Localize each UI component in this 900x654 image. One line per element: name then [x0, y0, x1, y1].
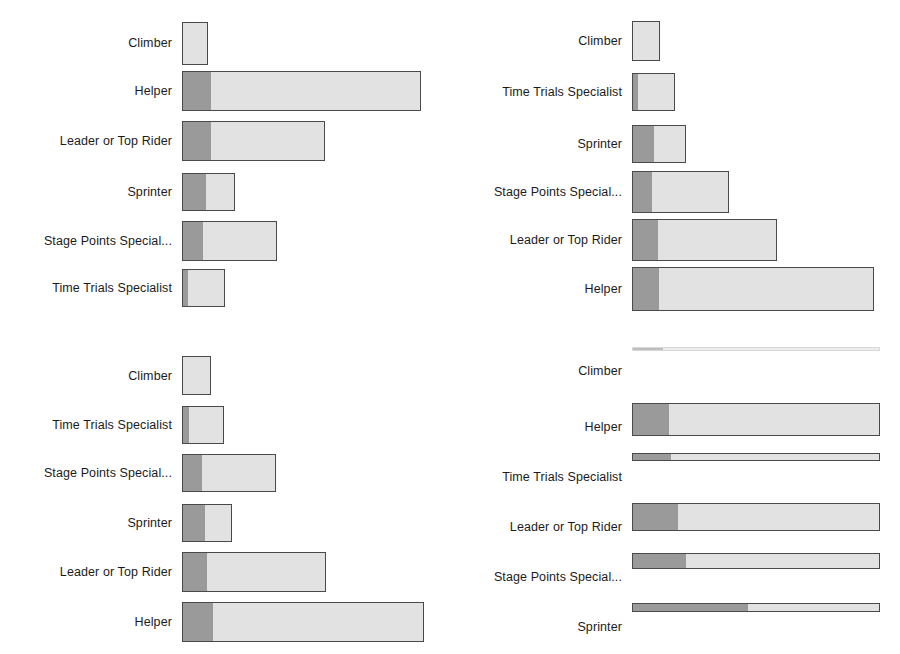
- bar-track: [182, 70, 450, 112]
- table-row[interactable]: Sprinter: [450, 124, 900, 164]
- table-row[interactable]: Sprinter: [450, 603, 900, 651]
- bar-track: [632, 603, 900, 651]
- stacked-bar[interactable]: [632, 73, 675, 111]
- stacked-bar[interactable]: [182, 269, 225, 307]
- bar-segment-light: [188, 270, 224, 306]
- table-row[interactable]: Stage Points Special...: [0, 220, 450, 262]
- chart-panel-bottom-right: Climber Helper Time Tr: [450, 327, 900, 654]
- bar-label: Time Trials Specialist: [450, 85, 632, 99]
- table-row[interactable]: Stage Points Special...: [0, 453, 450, 493]
- table-row[interactable]: Leader or Top Rider: [0, 120, 450, 162]
- bar-segment-light: [663, 348, 879, 350]
- table-row[interactable]: Time Trials Specialist: [0, 268, 450, 308]
- stacked-bar[interactable]: [632, 219, 777, 261]
- bar-segment-light: [658, 220, 776, 260]
- bar-segment-light: [183, 357, 210, 394]
- bar-label: Climber: [0, 369, 182, 383]
- bar-track: [182, 355, 450, 396]
- table-row[interactable]: Time Trials Specialist: [450, 453, 900, 501]
- table-row[interactable]: Climber: [0, 20, 450, 65]
- bar-track: [182, 551, 450, 593]
- bar-segment-light: [207, 553, 325, 591]
- stacked-bar[interactable]: [182, 173, 235, 211]
- stacked-bar[interactable]: [632, 21, 660, 61]
- bar-track: [182, 172, 450, 212]
- stacked-bar[interactable]: [182, 22, 208, 65]
- table-row[interactable]: Sprinter: [0, 503, 450, 543]
- bar-segment-dark: [633, 268, 659, 310]
- bar-track: [182, 220, 450, 262]
- bar-label: Climber: [0, 36, 182, 50]
- stacked-bar[interactable]: [182, 504, 232, 542]
- table-row[interactable]: Leader or Top Rider: [0, 551, 450, 593]
- bar-segment-light: [211, 72, 420, 110]
- stacked-bar[interactable]: [632, 503, 880, 531]
- table-row[interactable]: Leader or Top Rider: [450, 218, 900, 262]
- stacked-bar[interactable]: [632, 347, 880, 351]
- table-row[interactable]: Climber: [450, 20, 900, 62]
- stacked-bar[interactable]: [182, 121, 325, 161]
- bar-label: Helper: [0, 84, 182, 98]
- bar-track: [632, 503, 900, 551]
- stacked-bar[interactable]: [182, 552, 326, 592]
- bar-track: [182, 601, 450, 643]
- bar-segment-light: [659, 268, 873, 310]
- bar-label: Climber: [450, 364, 632, 378]
- stacked-bar[interactable]: [632, 171, 729, 213]
- bar-segment-light: [183, 23, 207, 64]
- stacked-bar[interactable]: [632, 603, 880, 612]
- bar-segment-dark: [633, 348, 663, 350]
- small-multiples-bar-chart-figure: Climber Helper Leader: [0, 0, 900, 654]
- stacked-bar[interactable]: [632, 553, 880, 569]
- bar-track: [182, 20, 450, 65]
- bar-label: Stage Points Special...: [0, 234, 182, 248]
- table-row[interactable]: Time Trials Specialist: [0, 405, 450, 445]
- bar-segment-dark: [633, 126, 654, 162]
- stacked-bar[interactable]: [632, 267, 874, 311]
- bar-segment-dark: [633, 454, 671, 460]
- bar-segment-light: [678, 504, 879, 530]
- bar-segment-light: [638, 74, 674, 110]
- table-row[interactable]: Helper: [0, 601, 450, 643]
- stacked-bar[interactable]: [632, 125, 686, 163]
- table-row[interactable]: Climber: [450, 347, 900, 395]
- table-row[interactable]: Climber: [0, 355, 450, 396]
- bar-label: Leader or Top Rider: [0, 565, 182, 579]
- bar-segment-light: [206, 174, 234, 210]
- stacked-bar[interactable]: [182, 356, 211, 395]
- stacked-bar[interactable]: [182, 602, 424, 642]
- bar-label: Sprinter: [0, 185, 182, 199]
- stacked-bar[interactable]: [182, 71, 421, 111]
- bar-segment-dark: [183, 222, 203, 260]
- table-row[interactable]: Helper: [450, 403, 900, 451]
- stacked-bar[interactable]: [632, 403, 880, 436]
- bar-segment-light: [211, 122, 324, 160]
- bar-label: Sprinter: [0, 516, 182, 530]
- bar-segment-dark: [633, 220, 658, 260]
- table-row[interactable]: Stage Points Special...: [450, 170, 900, 214]
- bar-segment-dark: [183, 122, 211, 160]
- bar-track: [182, 453, 450, 493]
- bar-row-list: Climber Time Trials Specialist: [0, 327, 450, 654]
- stacked-bar[interactable]: [632, 453, 880, 461]
- table-row[interactable]: Time Trials Specialist: [450, 72, 900, 112]
- table-row[interactable]: Leader or Top Rider: [450, 503, 900, 551]
- bar-track: [632, 403, 900, 451]
- bar-label: Helper: [450, 282, 632, 296]
- bar-row-list: Climber Helper Time Tr: [450, 327, 900, 654]
- bar-row-list: Climber Helper Leader: [0, 0, 450, 327]
- stacked-bar[interactable]: [182, 406, 224, 444]
- bar-label: Helper: [450, 420, 632, 434]
- stacked-bar[interactable]: [182, 454, 276, 492]
- bar-segment-light: [748, 604, 879, 611]
- bar-segment-dark: [183, 174, 206, 210]
- stacked-bar[interactable]: [182, 221, 277, 261]
- table-row[interactable]: Stage Points Special...: [450, 553, 900, 601]
- table-row[interactable]: Sprinter: [0, 172, 450, 212]
- bar-segment-light: [213, 603, 423, 641]
- bar-label: Stage Points Special...: [450, 570, 632, 584]
- bar-segment-dark: [633, 604, 748, 611]
- table-row[interactable]: Helper: [0, 70, 450, 112]
- bar-segment-dark: [183, 553, 207, 591]
- table-row[interactable]: Helper: [450, 266, 900, 312]
